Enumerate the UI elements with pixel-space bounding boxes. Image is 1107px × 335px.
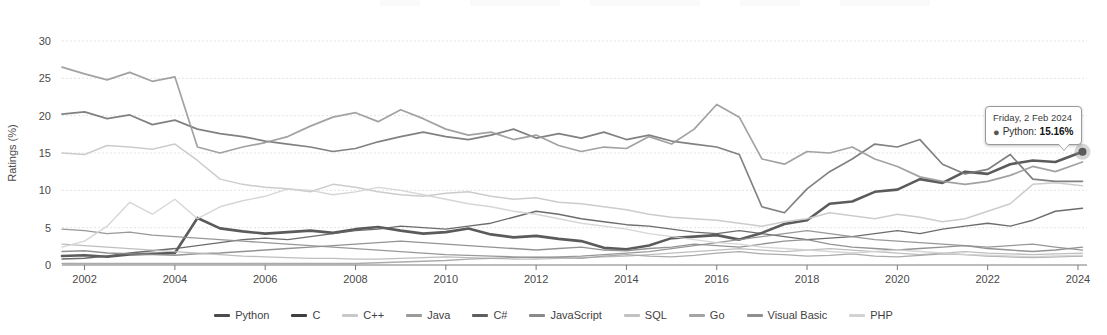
x-tick-label: 2022 [975,273,999,285]
legend-swatch-icon [406,314,422,317]
y-tick-label: 15 [39,147,51,159]
legend-item-c[interactable]: C [291,309,320,321]
x-tick-label: 2010 [434,273,458,285]
hover-marker-dot [1078,148,1086,156]
legend-item-java[interactable]: Java [406,309,450,321]
y-axis-title: Ratings (%) [6,124,18,181]
legend-label: C [312,309,320,321]
legend-label: JavaScript [550,309,601,321]
legend-label: Go [710,309,725,321]
legend-item-javascript[interactable]: JavaScript [529,309,601,321]
y-tick-label: 10 [39,184,51,196]
legend-swatch-icon [747,314,763,317]
legend-item-sql[interactable]: SQL [624,309,667,321]
tooltip-series-name: Python: [1003,125,1037,140]
legend-swatch-icon [689,314,705,317]
legend-swatch-icon [214,314,230,317]
ratings-line-chart: 0510152025302002200420062008201020122014… [0,0,1107,335]
legend-item-go[interactable]: Go [689,309,725,321]
legend-item-visual-basic[interactable]: Visual Basic [747,309,828,321]
legend-label: PHP [870,309,893,321]
x-tick-label: 2008 [343,273,367,285]
y-tick-label: 30 [39,35,51,47]
y-tick-label: 0 [45,259,51,271]
tooltip-tail [1058,143,1070,150]
tooltip-series-value: 15.16% [1040,125,1074,140]
legend-swatch-icon [529,314,545,317]
chart-tooltip: Friday, 2 Feb 2024 ● Python: 15.16% [985,106,1082,145]
y-tick-label: 25 [39,72,51,84]
x-tick-label: 2002 [72,273,96,285]
legend-label: C++ [363,309,384,321]
series-line-c [62,112,1082,213]
x-tick-label: 2016 [704,273,728,285]
legend-label: SQL [645,309,667,321]
series-line-php [62,187,1082,256]
legend-swatch-icon [291,314,307,317]
legend-swatch-icon [849,314,865,317]
legend-swatch-icon [342,314,358,317]
legend-swatch-icon [472,314,488,317]
series-line-java [62,67,1082,184]
tooltip-series-row: ● Python: 15.16% [993,125,1074,140]
x-tick-label: 2018 [795,273,819,285]
tooltip-bullet-icon: ● [993,127,1000,138]
x-tick-label: 2014 [614,273,638,285]
legend-item-python[interactable]: Python [214,309,269,321]
x-tick-label: 2006 [253,273,277,285]
legend-item-php[interactable]: PHP [849,309,893,321]
x-tick-label: 2012 [524,273,548,285]
x-tick-label: 2020 [885,273,909,285]
series-line-c- [62,144,1082,226]
series-line-python [62,152,1082,257]
chart-legend: PythonCC++JavaC#JavaScriptSQLGoVisual Ba… [0,303,1107,327]
x-tick-label: 2004 [163,273,187,285]
chart-plot-area: 0510152025302002200420062008201020122014… [0,0,1107,335]
legend-label: C# [493,309,507,321]
legend-label: Java [427,309,450,321]
y-tick-label: 20 [39,110,51,122]
series-line-c- [62,208,1082,259]
y-tick-label: 5 [45,222,51,234]
tooltip-date: Friday, 2 Feb 2024 [993,111,1074,125]
legend-swatch-icon [624,314,640,317]
x-tick-label: 2024 [1066,273,1090,285]
legend-label: Python [235,309,269,321]
series-line-javascript [62,240,1082,256]
legend-item-c-[interactable]: C++ [342,309,384,321]
legend-item-c-[interactable]: C# [472,309,507,321]
legend-label: Visual Basic [768,309,828,321]
